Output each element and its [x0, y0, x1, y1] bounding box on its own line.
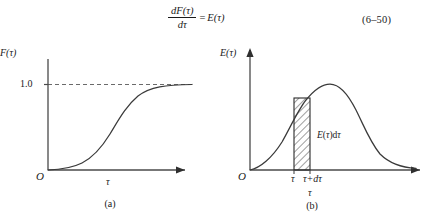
equals-sign: = [199, 12, 205, 23]
equation-number: (6–50) [362, 14, 391, 25]
fraction-denominator: dτ [175, 19, 190, 30]
hatched-strip-area-element [294, 98, 310, 170]
x-axis-arrowhead-a [176, 166, 185, 173]
derivative-fraction: dF(τ) dτ [168, 5, 196, 31]
y-axis-arrowhead-b [246, 48, 253, 57]
figure-a-plot [0, 42, 220, 219]
origin-label-b: O [238, 170, 246, 182]
equation-6-50: dF(τ) dτ = E(τ) [168, 5, 225, 31]
y-tick-label-1-0: 1.0 [20, 78, 33, 89]
origin-label-a: O [36, 170, 44, 182]
density-curve-E [250, 84, 416, 170]
fraction-bar [168, 17, 196, 18]
figure-caption-a: (a) [80, 198, 140, 209]
figure-a: 1.0 F(τ) O τ (a) [0, 42, 220, 219]
cumulative-curve-F [48, 85, 192, 171]
figure-caption-b: (b) [282, 200, 342, 211]
x-axis-label-a: τ [106, 176, 110, 187]
figure-b: E(τ) O E(τ)dτ τ τ+dτ τ (b) [220, 42, 440, 219]
equation-row: dF(τ) dτ = E(τ) (6–50) [0, 2, 440, 38]
x-axis-label-b: τ [308, 187, 312, 198]
x-axis-arrowhead-b [411, 166, 420, 173]
fraction-numerator: dF(τ) [168, 5, 196, 16]
x-tick-label-tau-plus-dtau: τ+dτ [303, 173, 322, 184]
equation-right-hand-side: E(τ) [207, 12, 224, 23]
figure-page: dF(τ) dτ = E(τ) (6–50) 1.0 F(τ) O τ [0, 0, 440, 219]
x-tick-label-tau: τ [291, 173, 295, 184]
area-element-annotation: E(τ)dτ [317, 130, 341, 140]
